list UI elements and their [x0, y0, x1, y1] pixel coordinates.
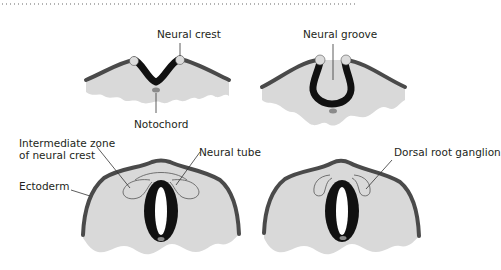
label-ectoderm: Ectoderm [19, 180, 69, 192]
label-neural-groove: Neural groove [303, 28, 377, 40]
panel-neural-groove: Neural groove [262, 28, 405, 126]
label-neural-tube: Neural tube [199, 146, 261, 158]
notochord [158, 237, 165, 241]
label-notochord: Notochord [134, 118, 188, 130]
neural-crest-right [176, 56, 185, 65]
notochord [329, 109, 337, 114]
label-neural-crest: Neural crest [157, 28, 221, 40]
label-intermediate-zone-line1: Intermediate zone [19, 137, 115, 149]
notochord [152, 88, 160, 93]
label-intermediate-zone-line2: of neural crest [19, 149, 95, 161]
panel-neural-tube: Intermediate zone of neural crest Neural… [19, 137, 261, 254]
notochord [340, 236, 347, 240]
neural-crest-left [130, 57, 139, 66]
neural-canal [155, 187, 167, 235]
neural-tube-development-diagram: Neural crest Notochord Neural groove Int… [0, 0, 501, 270]
neural-crest-left [315, 55, 325, 65]
label-dorsal-root-ganglion: Dorsal root ganglion [394, 146, 501, 158]
neural-canal [336, 187, 348, 235]
neural-crest-right [341, 55, 351, 65]
panel-neural-plate: Neural crest Notochord [86, 28, 229, 130]
leader-ectoderm [71, 190, 90, 196]
panel-dorsal-root-ganglion: Dorsal root ganglion [264, 146, 501, 254]
mesoderm-tissue [262, 60, 405, 126]
